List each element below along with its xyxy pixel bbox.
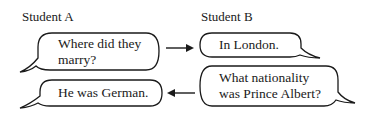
bubble-a1-line2: marry? xyxy=(58,52,141,68)
bubble-a2-text: He was German. xyxy=(58,85,148,101)
bubble-a1-line1: Where did they xyxy=(58,36,141,52)
bubble-b1-line1: In London. xyxy=(219,37,279,53)
bubble-b2-text: What nationality was Prince Albert? xyxy=(219,70,321,102)
bubble-b2-line2: was Prince Albert? xyxy=(219,86,321,102)
bubble-a1-text: Where did they marry? xyxy=(58,36,141,68)
bubble-b1-text: In London. xyxy=(219,37,279,53)
bubble-b2-line1: What nationality xyxy=(219,70,321,86)
bubble-a2-line1: He was German. xyxy=(58,85,148,101)
